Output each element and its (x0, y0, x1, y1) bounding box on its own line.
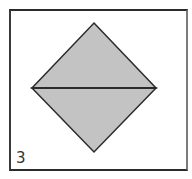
diamond-figure (0, 0, 192, 179)
lower-triangle (32, 88, 156, 152)
upper-triangle (32, 23, 156, 88)
figure-label: 3 (16, 150, 26, 167)
